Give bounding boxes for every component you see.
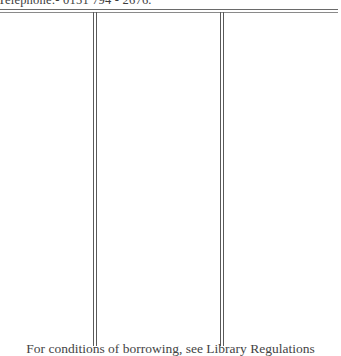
column-divider-left-line-2 bbox=[96, 12, 97, 346]
telephone-header: Telephone:- 0151 794 - 2676. bbox=[0, 0, 152, 8]
header-rule-lower bbox=[0, 12, 338, 13]
column-divider-right-line-2 bbox=[223, 12, 224, 346]
column-divider-right-line-1 bbox=[220, 12, 221, 346]
column-divider-left-line-1 bbox=[93, 12, 94, 346]
borrowing-conditions-footer: For conditions of borrowing, see Library… bbox=[0, 341, 341, 356]
header-rule-upper bbox=[0, 9, 338, 10]
